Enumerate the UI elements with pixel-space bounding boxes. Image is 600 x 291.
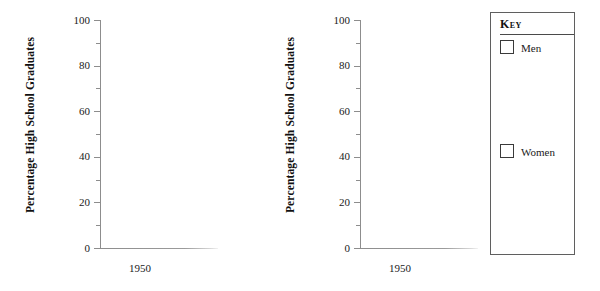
chart-panel-2: Percentage High School Graduates 100 80 … xyxy=(260,0,510,291)
y-tick-label-40: 40 xyxy=(316,151,350,162)
y-tick-label-20: 20 xyxy=(316,197,350,208)
y-tick-label-text: 20 xyxy=(316,197,350,208)
y-tick-major-40 xyxy=(94,157,101,158)
y-tick-label-text: 60 xyxy=(316,106,350,117)
y-tick-label-100: 100 xyxy=(56,15,90,26)
y-tick-major-80 xyxy=(354,66,361,67)
y-tick-major-20 xyxy=(354,202,361,203)
y-tick-label-text: 20 xyxy=(56,197,90,208)
y-tick-label-text: 80 xyxy=(56,60,90,71)
chart-panel-1: Percentage High School Graduates 100 80 … xyxy=(0,0,250,291)
y-tick-label-text: 80 xyxy=(316,60,350,71)
y-tick-label-60: 60 xyxy=(56,106,90,117)
legend-title-divider xyxy=(500,34,574,35)
legend-swatch-women xyxy=(500,144,514,158)
y-tick-label-60: 60 xyxy=(316,106,350,117)
y-tick-major-20 xyxy=(94,202,101,203)
legend-title: Key xyxy=(500,17,522,31)
legend-swatch-men xyxy=(500,40,514,54)
legend-label-women: Women xyxy=(521,145,555,159)
y-tick-label-40: 40 xyxy=(56,151,90,162)
y-tick-label-0: 0 xyxy=(56,243,90,254)
y-tick-label-text: 100 xyxy=(56,15,90,26)
y-tick-label-100: 100 xyxy=(316,15,350,26)
y-tick-label-0: 0 xyxy=(316,243,350,254)
y-tick-major-40 xyxy=(354,157,361,158)
y-tick-label-text: 0 xyxy=(316,243,350,254)
x-axis-line xyxy=(100,248,218,249)
plot-area xyxy=(101,20,218,248)
x-tick-label-1950: 1950 xyxy=(373,262,427,274)
y-tick-label-text: 40 xyxy=(316,151,350,162)
y-tick-major-100 xyxy=(94,20,101,21)
y-tick-major-0 xyxy=(354,248,361,249)
y-tick-label-text: 100 xyxy=(316,15,350,26)
y-tick-label-80: 80 xyxy=(316,60,350,71)
y-tick-major-60 xyxy=(94,111,101,112)
y-tick-label-text: 60 xyxy=(56,106,90,117)
y-tick-major-100 xyxy=(354,20,361,21)
x-tick-label-1950: 1950 xyxy=(113,262,167,274)
y-tick-label-text: 40 xyxy=(56,151,90,162)
plot-area xyxy=(361,20,478,248)
y-tick-label-text: 0 xyxy=(56,243,90,254)
y-tick-major-60 xyxy=(354,111,361,112)
y-axis-title: Percentage High School Graduates xyxy=(281,0,299,250)
y-tick-major-0 xyxy=(94,248,101,249)
y-axis-title: Percentage High School Graduates xyxy=(21,0,39,250)
chart-legend-key: Key Men Women xyxy=(490,12,575,255)
y-tick-major-80 xyxy=(94,66,101,67)
legend-label-men: Men xyxy=(521,41,541,55)
x-axis-line xyxy=(360,248,478,249)
y-tick-label-80: 80 xyxy=(56,60,90,71)
y-tick-label-20: 20 xyxy=(56,197,90,208)
